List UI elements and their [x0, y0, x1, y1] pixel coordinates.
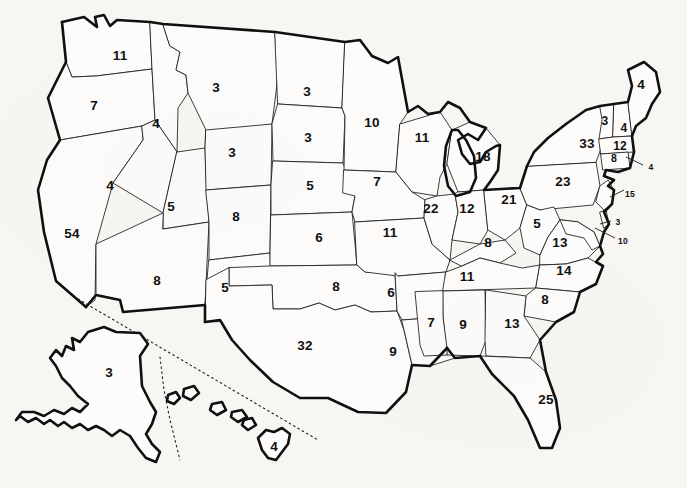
- state-SC: [524, 288, 580, 322]
- ev-label-WV: 5: [533, 217, 541, 231]
- ev-label-IL: 22: [423, 202, 438, 216]
- ev-label-MA: 12: [613, 140, 627, 152]
- ev-label-ME: 4: [637, 78, 645, 92]
- ev-label-KS: 6: [315, 231, 323, 245]
- ev-label-PA: 23: [555, 175, 570, 189]
- hawaii-island-3: [210, 402, 226, 415]
- ev-label-MT: 3: [212, 81, 220, 95]
- ev-label-NM: 5: [221, 281, 229, 295]
- state-WY: [205, 124, 272, 190]
- ev-label-CT: 8: [611, 153, 617, 164]
- ev-label-CA: 54: [64, 227, 79, 241]
- ev-label-IN: 12: [459, 202, 474, 216]
- ev-label-SC: 8: [541, 293, 549, 307]
- ev-label-AR: 6: [387, 286, 395, 300]
- ev-label-NY: 33: [579, 137, 594, 151]
- ev-label-CO: 8: [232, 210, 240, 224]
- hawaii-island-1: [167, 392, 180, 404]
- state-KS: [270, 212, 357, 266]
- state-AK: [16, 327, 160, 462]
- ev-label-WY: 3: [228, 146, 236, 160]
- ev-label-MS: 7: [427, 316, 435, 330]
- ev-label-OH: 21: [501, 193, 516, 207]
- ev-label-UT: 5: [167, 200, 175, 214]
- ev-label-AL: 9: [459, 318, 467, 332]
- ev-label-MI: 18: [475, 150, 490, 164]
- ev-label-MO: 11: [383, 226, 398, 240]
- ev-label-NH: 4: [621, 122, 628, 134]
- ev-label-OR: 7: [90, 99, 98, 113]
- ev-label-TN: 11: [460, 270, 475, 284]
- ev-label-NV: 4: [106, 179, 114, 193]
- ev-label-NE: 5: [306, 179, 314, 193]
- ev-label-NJ: 15: [625, 190, 635, 199]
- ev-label-NC: 14: [556, 264, 571, 278]
- ev-label-IA: 7: [373, 175, 381, 189]
- ev-label-WA: 11: [113, 49, 128, 63]
- ev-label-FL: 25: [538, 393, 553, 407]
- ev-label-HI: 4: [270, 440, 278, 454]
- ev-label-AZ: 8: [153, 274, 161, 288]
- ev-label-VT: 3: [602, 115, 609, 127]
- state-AZ: [96, 213, 209, 312]
- ev-label-WI: 11: [415, 131, 430, 145]
- ev-label-ND: 3: [303, 85, 311, 99]
- state-WA: [62, 15, 152, 77]
- state-IN: [452, 190, 488, 244]
- ev-label-SD: 3: [304, 131, 312, 145]
- ev-label-RI: 4: [649, 163, 654, 172]
- ev-label-DE: 3: [616, 218, 621, 227]
- ev-label-KY: 8: [484, 236, 492, 250]
- ev-label-MD: 10: [618, 237, 628, 246]
- ev-label-LA: 9: [389, 345, 397, 359]
- hawaii-island-2: [183, 386, 199, 400]
- ev-label-OK: 8: [332, 280, 340, 294]
- electoral-vote-map: 1175444583385335683210711691122718128119…: [0, 0, 687, 488]
- ev-label-VA: 13: [552, 236, 567, 250]
- ev-label-TX: 32: [297, 339, 312, 353]
- alaska-inset-divider: [160, 357, 180, 460]
- ev-label-AK: 3: [105, 366, 113, 380]
- ev-label-GA: 13: [504, 317, 519, 331]
- ev-label-ID: 4: [152, 117, 160, 131]
- ev-label-MN: 10: [364, 116, 379, 130]
- hawaii-island-5: [242, 418, 256, 430]
- us-map-svg: [0, 0, 687, 488]
